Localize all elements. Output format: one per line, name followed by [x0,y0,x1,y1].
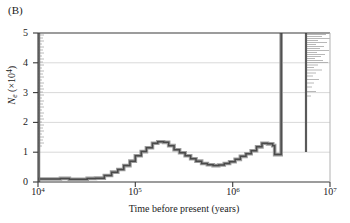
panel-label: (B) [8,4,23,16]
plot-background [38,33,330,182]
xtick-label-1e7-exp: 7 [333,186,337,194]
xtick-label-1e6-base: 10 [226,186,236,197]
figure-panel-b: (B) Ne (×104) Time before present (years… [0,0,350,223]
chart-plot-area [0,0,350,223]
xtick-label-1e6-exp: 6 [236,186,240,194]
xtick-label-1e5-base: 10 [128,186,138,197]
xtick-label-1e5-exp: 5 [138,186,142,194]
y-axis-label-exponent: 4 [5,69,14,73]
y-axis-label-symbol: N [6,98,17,105]
y-axis-ticks [33,33,38,182]
xtick-label-1e4-exp: 4 [41,186,45,194]
x-axis-label: Time before present (years) [38,203,330,214]
xtick-label-1e6: 106 [219,186,247,197]
ytick-label-3: 3 [14,87,28,98]
xtick-label-1e4-base: 10 [31,186,41,197]
xtick-label-1e5: 105 [121,186,149,197]
ytick-label-5: 5 [14,27,28,38]
xtick-label-1e7: 107 [316,186,344,197]
x-axis-ticks [38,182,330,187]
xtick-label-1e7-base: 10 [323,186,333,197]
xtick-label-1e4: 104 [24,186,52,197]
ytick-label-4: 4 [14,57,28,68]
ytick-label-2: 2 [14,116,28,127]
ytick-label-1: 1 [14,146,28,157]
